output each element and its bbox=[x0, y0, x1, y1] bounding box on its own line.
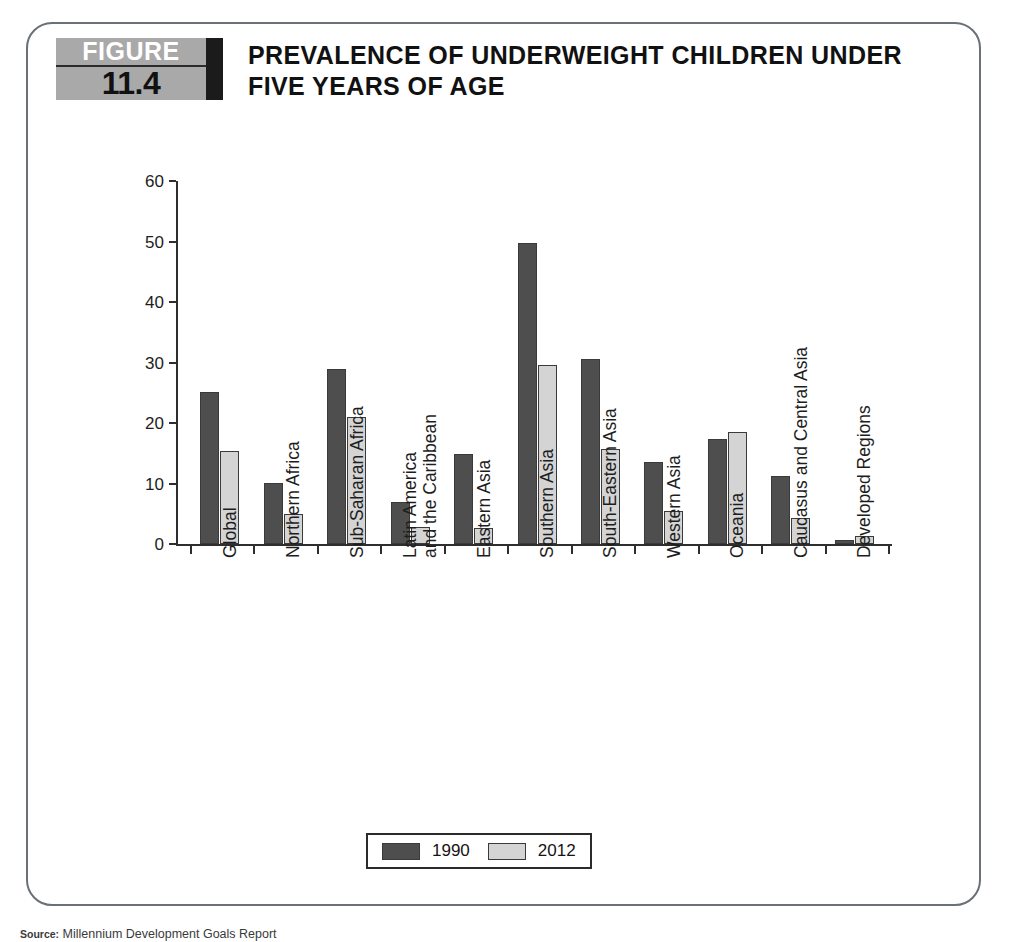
bar-1990-southern-asia bbox=[518, 243, 537, 544]
y-tick-label: 60 bbox=[145, 172, 164, 192]
x-tick-mark bbox=[571, 546, 573, 554]
plot-area: 0102030405060 GlobalNorthern AfricaSub-S… bbox=[176, 181, 892, 546]
x-tick-mark bbox=[444, 546, 446, 554]
x-tick-mark bbox=[380, 546, 382, 554]
x-axis-label-line: Southern Asia bbox=[537, 449, 557, 558]
x-axis-label-line: Northern Africa bbox=[283, 441, 303, 558]
y-tick-label: 40 bbox=[145, 293, 164, 313]
x-axis-label-line: and the Caribbean bbox=[420, 414, 440, 558]
x-axis-label-line: Sub-Saharan Africa bbox=[347, 406, 367, 558]
y-tick-label: 20 bbox=[145, 414, 164, 434]
legend-item-1990: 1990 bbox=[382, 841, 470, 861]
x-tick-mark bbox=[190, 546, 192, 554]
y-tick-label: 0 bbox=[155, 535, 164, 555]
bar-chart: 0102030405060 GlobalNorthern AfricaSub-S… bbox=[120, 165, 910, 585]
x-tick-mark bbox=[317, 546, 319, 554]
legend-item-2012: 2012 bbox=[488, 841, 576, 861]
bar-1990-sub-saharan-africa bbox=[327, 369, 346, 544]
x-axis-label: Oceania bbox=[727, 493, 747, 558]
x-axis-label-line: South-Eastern Asia bbox=[600, 408, 620, 558]
x-axis-label-line: Oceania bbox=[727, 493, 747, 558]
x-axis-label: Sub-Saharan Africa bbox=[347, 406, 367, 558]
y-tick-label: 50 bbox=[145, 233, 164, 253]
y-tick-label: 30 bbox=[145, 354, 164, 374]
y-tick-mark bbox=[169, 483, 176, 485]
figure-page: FIGURE 11.4 PREVALENCE OF UNDERWEIGHT CH… bbox=[0, 0, 1021, 942]
x-tick-mark bbox=[825, 546, 827, 554]
bar-1990-western-asia bbox=[644, 462, 663, 544]
bar-1990-developed-regions bbox=[835, 540, 854, 544]
bar-1990-caucasus-and-central-asia bbox=[771, 476, 790, 544]
y-tick-mark bbox=[169, 543, 176, 545]
x-axis-label-line: Eastern Asia bbox=[474, 460, 494, 558]
x-axis-label: Western Asia bbox=[664, 455, 684, 558]
x-tick-mark bbox=[698, 546, 700, 554]
x-axis-label: Developed Regions bbox=[854, 405, 874, 558]
figure-badge: FIGURE 11.4 bbox=[56, 38, 223, 100]
figure-badge-tab bbox=[206, 38, 223, 100]
x-axis-label: Northern Africa bbox=[283, 441, 303, 558]
legend-label-2012: 2012 bbox=[538, 841, 576, 861]
x-axis-label-line: Western Asia bbox=[664, 455, 684, 558]
figure-badge-word: FIGURE bbox=[56, 38, 206, 65]
legend-swatch-2012 bbox=[488, 843, 526, 860]
y-tick-mark bbox=[169, 241, 176, 243]
y-tick-mark bbox=[169, 422, 176, 424]
source-text: Millennium Development Goals Report bbox=[59, 927, 276, 941]
x-tick-mark bbox=[634, 546, 636, 554]
bar-1990-south-eastern-asia bbox=[581, 359, 600, 544]
chart-legend: 19902012 bbox=[366, 833, 592, 869]
x-axis-label: Global bbox=[220, 507, 240, 558]
y-tick-mark bbox=[169, 301, 176, 303]
x-axis-label-line: Global bbox=[220, 507, 240, 558]
y-tick-mark bbox=[169, 362, 176, 364]
bar-1990-eastern-asia bbox=[454, 454, 473, 544]
x-tick-mark bbox=[761, 546, 763, 554]
y-axis bbox=[176, 181, 178, 546]
x-axis-label: Caucasus and Central Asia bbox=[791, 347, 811, 558]
x-tick-mark bbox=[507, 546, 509, 554]
y-tick-mark bbox=[169, 180, 176, 182]
bar-1990-northern-africa bbox=[264, 483, 283, 544]
source-label: Source: bbox=[20, 928, 59, 940]
x-axis-label-line: Latin America bbox=[400, 414, 420, 558]
legend-label-1990: 1990 bbox=[432, 841, 470, 861]
legend-swatch-1990 bbox=[382, 843, 420, 860]
y-tick-label: 10 bbox=[145, 475, 164, 495]
x-axis-label: Eastern Asia bbox=[474, 460, 494, 558]
bar-1990-global bbox=[200, 392, 219, 544]
bar-1990-oceania bbox=[708, 439, 727, 544]
figure-badge-number: 11.4 bbox=[56, 67, 206, 100]
x-axis-label-line: Developed Regions bbox=[854, 405, 874, 558]
x-axis-label: South-Eastern Asia bbox=[600, 408, 620, 558]
x-tick-mark bbox=[888, 546, 890, 554]
source-caption: Source: Millennium Development Goals Rep… bbox=[20, 927, 720, 942]
x-axis-label: Southern Asia bbox=[537, 449, 557, 558]
x-axis-label-line: Caucasus and Central Asia bbox=[791, 347, 811, 558]
figure-badge-body: FIGURE 11.4 bbox=[56, 38, 206, 100]
x-axis-label: Latin Americaand the Caribbean bbox=[400, 414, 440, 558]
figure-title: PREVALENCE OF UNDERWEIGHT CHILDREN UNDER… bbox=[248, 40, 948, 102]
x-tick-mark bbox=[253, 546, 255, 554]
